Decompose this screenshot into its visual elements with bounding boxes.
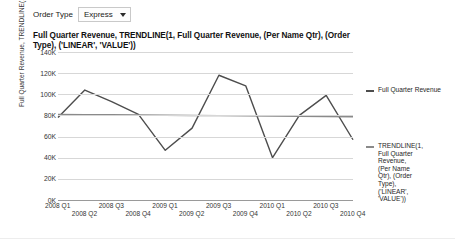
x-axis-tick: 2009 Q3 bbox=[206, 202, 231, 210]
y-axis-tick: 40K bbox=[28, 154, 56, 161]
gridline bbox=[58, 73, 353, 74]
chart-page: Order Type Express Full Quarter Revenue,… bbox=[0, 0, 455, 243]
gridline bbox=[58, 179, 353, 180]
chevron-down-icon bbox=[120, 13, 126, 17]
y-axis-tick: 100K bbox=[28, 91, 56, 98]
x-axis-tick: 2009 Q2 bbox=[179, 210, 204, 218]
x-axis-tick: 2010 Q3 bbox=[313, 202, 338, 210]
legend-color-swatch bbox=[366, 90, 374, 92]
x-axis-tick: 2010 Q1 bbox=[260, 202, 285, 210]
legend-label: Full Quarter Revenue bbox=[378, 86, 441, 94]
order-type-filter-label: Order Type bbox=[33, 10, 73, 19]
y-axis-tick: 140K bbox=[28, 49, 56, 56]
series-lines bbox=[58, 52, 353, 200]
gridline bbox=[58, 200, 353, 201]
order-type-dropdown[interactable]: Express bbox=[78, 7, 131, 22]
footer-divider bbox=[0, 238, 455, 239]
x-axis-tick: 2008 Q1 bbox=[45, 202, 70, 210]
y-axis-tick: 60K bbox=[28, 133, 56, 140]
x-axis-tick: 2010 Q4 bbox=[340, 210, 365, 218]
x-axis-tick: 2008 Q4 bbox=[125, 210, 150, 218]
gridline bbox=[58, 94, 353, 95]
y-axis-tick: 80K bbox=[28, 112, 56, 119]
x-axis-tick: 2008 Q3 bbox=[99, 202, 124, 210]
x-axis-tick: 2009 Q4 bbox=[233, 210, 258, 218]
legend-label: TRENDLINE(1, Full Quarter Revenue, (Per … bbox=[378, 142, 423, 203]
x-axis-tick-labels: 2008 Q12008 Q22008 Q32008 Q42009 Q12009 … bbox=[30, 202, 450, 230]
plot-grid bbox=[58, 52, 353, 200]
x-axis-tick: 2010 Q2 bbox=[286, 210, 311, 218]
y-axis-title: Full Quarter Revenue, TRENDLINE(1, Full … bbox=[18, 0, 25, 107]
legend-item[interactable]: TRENDLINE(1, Full Quarter Revenue, (Per … bbox=[366, 142, 423, 203]
y-axis-tick: 120K bbox=[28, 70, 56, 77]
y-axis-tick: 20K bbox=[28, 175, 56, 182]
gridline bbox=[58, 115, 353, 116]
x-axis-tick: 2008 Q2 bbox=[72, 210, 97, 218]
order-type-selected-value: Express bbox=[84, 9, 113, 20]
gridline bbox=[58, 137, 353, 138]
chart-title: Full Quarter Revenue, TRENDLINE(1, Full … bbox=[33, 31, 363, 50]
legend-color-swatch bbox=[366, 146, 374, 148]
order-type-filter: Order Type Express bbox=[33, 7, 131, 22]
gridline bbox=[58, 158, 353, 159]
y-axis-tick-labels: 0K20K40K60K80K100K120K140K bbox=[26, 52, 56, 227]
x-axis-tick: 2009 Q1 bbox=[152, 202, 177, 210]
legend-item[interactable]: Full Quarter Revenue bbox=[366, 86, 441, 94]
gridline bbox=[58, 52, 353, 53]
